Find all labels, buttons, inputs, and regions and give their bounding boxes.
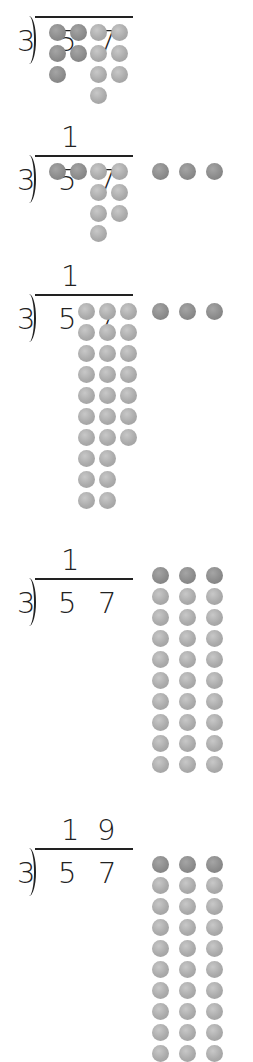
ones-counter bbox=[152, 940, 169, 957]
ones-counter bbox=[99, 450, 116, 467]
ones-counter bbox=[78, 471, 95, 488]
ones-counter bbox=[179, 651, 196, 668]
tens-counter bbox=[70, 45, 87, 62]
ones-counter bbox=[78, 303, 95, 320]
divisor: 3 bbox=[17, 589, 35, 618]
ones-counter bbox=[78, 387, 95, 404]
ones-counter bbox=[99, 366, 116, 383]
tens-counter bbox=[152, 856, 169, 873]
ones-counter bbox=[206, 588, 223, 605]
ones-counter bbox=[152, 588, 169, 605]
ones-counter bbox=[206, 630, 223, 647]
ones-counter bbox=[179, 672, 196, 689]
ones-counter bbox=[152, 756, 169, 773]
quotient-tens-digit: 1 bbox=[61, 546, 79, 575]
ones-counter bbox=[120, 345, 137, 362]
ones-counter bbox=[179, 982, 196, 999]
ones-counter bbox=[179, 898, 196, 915]
ones-counter bbox=[206, 940, 223, 957]
ones-counter bbox=[120, 387, 137, 404]
ones-counter bbox=[206, 609, 223, 626]
ones-counter bbox=[78, 429, 95, 446]
ones-counter bbox=[99, 408, 116, 425]
tens-counter bbox=[152, 567, 169, 584]
ones-counter bbox=[152, 982, 169, 999]
dividend-tens-digit: 5 bbox=[58, 305, 76, 334]
dividend-ones-digit: 7 bbox=[98, 589, 116, 618]
ones-counter bbox=[206, 693, 223, 710]
tens-counter bbox=[206, 567, 223, 584]
ones-counter bbox=[179, 961, 196, 978]
divisor: 3 bbox=[17, 166, 35, 195]
dividend-tens-digit: 5 bbox=[58, 859, 76, 888]
ones-counter bbox=[120, 366, 137, 383]
tens-counter bbox=[179, 567, 196, 584]
quotient-tens-digit: 1 bbox=[61, 262, 79, 291]
ones-counter bbox=[179, 1045, 196, 1062]
tens-counter bbox=[179, 303, 196, 320]
ones-counter bbox=[99, 429, 116, 446]
tens-counter bbox=[179, 163, 196, 180]
ones-counter bbox=[179, 940, 196, 957]
ones-counter bbox=[206, 1024, 223, 1041]
ones-counter bbox=[78, 345, 95, 362]
ones-counter bbox=[99, 345, 116, 362]
divisor: 3 bbox=[17, 305, 35, 334]
ones-counter bbox=[78, 324, 95, 341]
quotient-tens-digit: 1 bbox=[61, 123, 79, 152]
ones-counter bbox=[90, 225, 107, 242]
tens-counter bbox=[206, 856, 223, 873]
ones-counter bbox=[152, 609, 169, 626]
ones-counter bbox=[90, 24, 107, 41]
ones-counter bbox=[90, 87, 107, 104]
quotient-ones-digit: 9 bbox=[97, 816, 115, 845]
ones-counter bbox=[179, 1024, 196, 1041]
ones-counter bbox=[99, 471, 116, 488]
ones-counter bbox=[111, 184, 128, 201]
ones-counter bbox=[206, 898, 223, 915]
ones-counter bbox=[90, 45, 107, 62]
ones-counter bbox=[152, 877, 169, 894]
ones-counter bbox=[206, 961, 223, 978]
ones-counter bbox=[206, 651, 223, 668]
ones-counter bbox=[179, 1003, 196, 1020]
ones-counter bbox=[179, 609, 196, 626]
ones-counter bbox=[179, 735, 196, 752]
ones-counter bbox=[99, 492, 116, 509]
ones-counter bbox=[99, 303, 116, 320]
ones-counter bbox=[78, 450, 95, 467]
ones-counter bbox=[206, 756, 223, 773]
ones-counter bbox=[120, 408, 137, 425]
division-bar bbox=[35, 16, 133, 18]
ones-counter bbox=[152, 672, 169, 689]
ones-counter bbox=[152, 1024, 169, 1041]
ones-counter bbox=[152, 693, 169, 710]
division-bar bbox=[35, 578, 133, 580]
ones-counter bbox=[78, 492, 95, 509]
ones-counter bbox=[111, 66, 128, 83]
ones-counter bbox=[111, 24, 128, 41]
division-bar bbox=[35, 294, 133, 296]
tens-counter bbox=[152, 303, 169, 320]
ones-counter bbox=[78, 408, 95, 425]
ones-counter bbox=[206, 672, 223, 689]
ones-counter bbox=[179, 714, 196, 731]
tens-counter bbox=[49, 45, 66, 62]
ones-counter bbox=[90, 66, 107, 83]
ones-counter bbox=[206, 1003, 223, 1020]
ones-counter bbox=[152, 1003, 169, 1020]
dividend-tens-digit: 5 bbox=[58, 589, 76, 618]
ones-counter bbox=[152, 961, 169, 978]
ones-counter bbox=[152, 651, 169, 668]
ones-counter bbox=[152, 630, 169, 647]
ones-counter bbox=[78, 366, 95, 383]
ones-counter bbox=[206, 919, 223, 936]
divisor: 3 bbox=[17, 27, 35, 56]
ones-counter bbox=[111, 163, 128, 180]
ones-counter bbox=[152, 735, 169, 752]
ones-counter bbox=[90, 205, 107, 222]
quotient-tens-digit: 1 bbox=[61, 816, 79, 845]
ones-counter bbox=[179, 756, 196, 773]
tens-counter bbox=[179, 856, 196, 873]
tens-counter bbox=[49, 66, 66, 83]
